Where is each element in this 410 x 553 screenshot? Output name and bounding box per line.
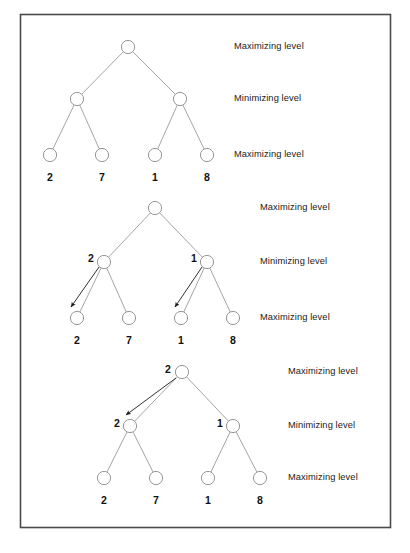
- leaf-value: 2: [101, 494, 107, 506]
- leaf-value: 8: [257, 494, 263, 506]
- tree-edge: [133, 52, 176, 95]
- leaf-node: [43, 148, 56, 161]
- inner-node: [200, 255, 213, 268]
- leaf-node: [70, 311, 83, 324]
- tree-edge: [158, 105, 178, 149]
- node-value-annotation: 2: [114, 417, 120, 429]
- tree-edge: [82, 52, 124, 95]
- level-label: Maximizing level: [260, 312, 330, 322]
- leaf-node: [97, 471, 110, 484]
- leaf-node: [95, 148, 108, 161]
- inner-node: [97, 255, 110, 268]
- tree-edge: [53, 105, 74, 149]
- tree-edge: [107, 432, 127, 472]
- leaf-value: 7: [126, 334, 132, 346]
- tree-edge: [80, 105, 100, 149]
- figure-border: [21, 15, 391, 528]
- inner-node: [123, 419, 136, 432]
- level-label: Maximizing level: [234, 149, 304, 159]
- leaf-value: 8: [204, 171, 210, 183]
- tree-edge: [236, 432, 257, 472]
- level-label: Maximizing level: [288, 472, 358, 482]
- inner-node: [226, 419, 239, 432]
- leaf-node: [148, 148, 161, 161]
- level-label: Maximizing level: [260, 202, 330, 212]
- tree-edge: [160, 213, 203, 257]
- leaf-node: [201, 471, 214, 484]
- value-propagation-arrow: [126, 378, 176, 415]
- inner-node: [70, 92, 83, 105]
- leaf-node: [200, 148, 213, 161]
- leaf-value: 2: [74, 334, 80, 346]
- leaf-node: [149, 471, 162, 484]
- leaf-value: 8: [230, 334, 236, 346]
- node-value-annotation: 1: [191, 252, 197, 264]
- level-label: Minimizing level: [288, 420, 355, 430]
- tree-edge: [133, 432, 153, 472]
- tree-edge: [210, 268, 230, 312]
- root-node: [175, 365, 188, 378]
- level-label: Minimizing level: [234, 93, 301, 103]
- tree-edge: [187, 377, 229, 421]
- leaf-value: 7: [99, 171, 105, 183]
- tree-top: [43, 40, 213, 161]
- minimax-tree-figure: Maximizing levelMinimizing levelMaximizi…: [0, 0, 410, 553]
- tree-edge: [109, 213, 151, 257]
- level-label: Maximizing level: [234, 41, 304, 51]
- inner-node: [173, 92, 186, 105]
- leaf-node: [122, 311, 135, 324]
- leaf-node: [226, 311, 239, 324]
- leaf-value: 1: [205, 494, 211, 506]
- leaf-value: 7: [153, 494, 159, 506]
- tree-edge: [135, 377, 178, 421]
- tree-bottom: [97, 365, 266, 484]
- leaf-node: [253, 471, 266, 484]
- tree-edge: [211, 432, 230, 472]
- level-label: Maximizing level: [288, 366, 358, 376]
- tree-middle: [70, 201, 239, 324]
- node-value-annotation: 1: [217, 417, 223, 429]
- tree-edge: [183, 105, 204, 149]
- leaf-node: [174, 311, 187, 324]
- root-node: [148, 201, 161, 214]
- leaf-value: 2: [47, 171, 53, 183]
- tree-diagram-canvas: [0, 0, 410, 553]
- tree-edge: [107, 268, 127, 312]
- node-value-annotation: 2: [88, 252, 94, 264]
- level-label: Minimizing level: [260, 256, 327, 266]
- root-node: [121, 40, 134, 53]
- leaf-value: 1: [178, 334, 184, 346]
- node-value-annotation: 2: [165, 363, 171, 375]
- leaf-value: 1: [152, 171, 158, 183]
